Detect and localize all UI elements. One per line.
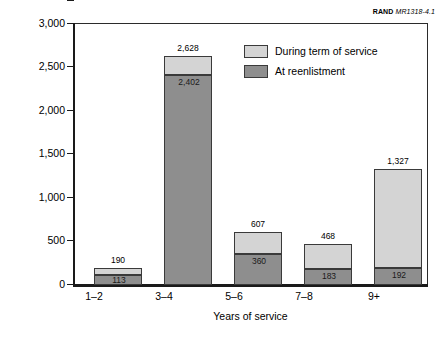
bars-layer: 190 113 2,628 2,402 607 360 468 183 [73, 23, 428, 285]
x-tick-label: 9+ [339, 291, 409, 302]
chart-container: RAND MR1318-4.1 Number of reclassificati… [0, 0, 443, 337]
y-tick-label: 1,000 [5, 192, 65, 203]
x-tick-label: 5–6 [199, 291, 269, 302]
bar-total-label: 190 [88, 256, 148, 265]
bar-segment-value: 113 [95, 276, 143, 285]
y-tick-label: 3,000 [5, 18, 65, 29]
bar-segment-during-term [164, 56, 212, 76]
x-axis-title: Years of service [73, 311, 428, 322]
bar-segment-at-reenlistment: 183 [304, 269, 352, 285]
y-tick-label: 1,500 [5, 148, 65, 159]
rand-document-id: MR1318-4.1 [395, 8, 435, 15]
y-tick-label: 500 [5, 235, 65, 246]
rand-org-label: RAND [373, 8, 394, 15]
bar-segment-at-reenlistment: 113 [94, 275, 142, 285]
bar-segment-value: 183 [305, 272, 353, 281]
bar-segment-value: 192 [375, 271, 423, 280]
bar-segment-at-reenlistment: 192 [374, 268, 422, 285]
y-tick-label: 2,000 [5, 105, 65, 116]
x-tick-label: 1–2 [59, 291, 129, 302]
bar-total-label: 2,628 [158, 44, 218, 53]
x-tick-label: 7–8 [269, 291, 339, 302]
bar-segment-at-reenlistment: 2,402 [164, 75, 212, 285]
bar-segment-value: 360 [235, 257, 283, 266]
bar-segment-at-reenlistment: 360 [234, 254, 282, 285]
y-tick-mark [67, 0, 74, 1]
x-tick-label: 3–4 [129, 291, 199, 302]
y-tick-label: 0 [5, 279, 65, 290]
y-tick-label: 2,500 [5, 61, 65, 72]
bar-segment-during-term [304, 244, 352, 269]
bar-total-label: 468 [298, 232, 358, 241]
bar-segment-value: 2,402 [165, 78, 213, 87]
bar-total-label: 1,327 [368, 157, 428, 166]
bar-total-label: 607 [228, 220, 288, 229]
bar-segment-during-term [374, 169, 422, 268]
bar-segment-during-term [234, 232, 282, 254]
rand-source-note: RAND MR1318-4.1 [373, 8, 435, 15]
